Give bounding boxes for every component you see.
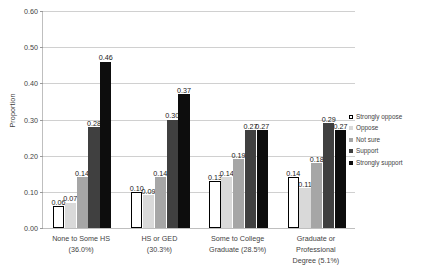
legend-item-label: Not sure	[356, 137, 380, 143]
chart-legend: Strongly opposeOpposeNot sureSupportStro…	[349, 111, 423, 169]
legend-item-label: Strongly oppose	[356, 114, 402, 120]
legend-item[interactable]: Strongly support	[349, 157, 423, 169]
bar[interactable]: 0.19	[233, 159, 244, 228]
bar[interactable]: 0.18	[311, 163, 322, 228]
bar[interactable]: 0.27	[245, 130, 256, 228]
y-axis-title: Proportion	[8, 76, 17, 146]
bar[interactable]: 0.14	[288, 177, 299, 228]
y-axis-tick-label: 0.60	[24, 7, 38, 16]
bar[interactable]: 0.06	[53, 206, 64, 228]
x-axis-category-label: Some to CollegeGraduate (28.5%)	[199, 233, 277, 255]
bar-value-label: 0.37	[177, 87, 191, 94]
x-axis-category-line: HS or GED	[120, 233, 198, 244]
x-axis-category-label: Graduate or ProfessionalDegree (5.1%)	[277, 233, 355, 266]
y-axis-tick-label: 0.20	[24, 151, 38, 160]
legend-item[interactable]: Strongly oppose	[349, 111, 423, 123]
x-axis-category-line: Graduate (28.5%)	[199, 244, 277, 255]
bar[interactable]: 0.37	[178, 94, 189, 228]
bar[interactable]: 0.27	[335, 130, 346, 228]
legend-swatch-icon	[349, 161, 353, 165]
bar[interactable]: 0.30	[167, 120, 178, 229]
bar[interactable]: 0.46	[100, 62, 111, 228]
legend-item-label: Support	[356, 148, 378, 154]
y-axis-tick-label: 0.40	[24, 79, 38, 88]
bar[interactable]: 0.14	[155, 177, 166, 228]
bar[interactable]: 0.13	[209, 181, 220, 228]
bar-value-label: 0.27	[255, 123, 269, 130]
bar-value-label: 0.28	[87, 120, 101, 127]
legend-item[interactable]: Not sure	[349, 134, 423, 146]
legend-swatch-icon	[349, 149, 353, 153]
legend-item-label: Oppose	[356, 125, 378, 131]
gridline	[43, 228, 355, 229]
x-axis-category-line: Graduate or Professional	[277, 233, 355, 255]
bar-value-label: 0.09	[142, 188, 156, 195]
legend-item-label: Strongly support	[356, 160, 403, 166]
legend-item[interactable]: Support	[349, 146, 423, 158]
bar[interactable]: 0.14	[77, 177, 88, 228]
bar[interactable]: 0.07	[65, 203, 76, 228]
bar-value-label: 0.14	[286, 170, 300, 177]
bar[interactable]: 0.09	[143, 195, 154, 228]
bar[interactable]: 0.10	[131, 192, 142, 228]
bar-value-label: 0.14	[75, 170, 89, 177]
x-axis-category-line: (36.0%)	[42, 244, 120, 255]
bar-value-label: 0.11	[298, 181, 311, 188]
legend-swatch-icon	[349, 115, 353, 119]
bar-value-label: 0.14	[153, 170, 167, 177]
bar-value-label: 0.19	[232, 152, 246, 159]
bar-value-label: 0.27	[333, 123, 347, 130]
bar[interactable]: 0.27	[257, 130, 268, 228]
y-axis-tick-label: 0.10	[24, 187, 38, 196]
bar[interactable]: 0.11	[299, 188, 310, 228]
x-axis-category-line: None to Some HS	[42, 233, 120, 244]
bar-value-label: 0.18	[310, 156, 324, 163]
bar[interactable]: 0.14	[221, 177, 232, 228]
x-axis-category-label: HS or GED(30.3%)	[120, 233, 198, 255]
bar-value-label: 0.46	[99, 54, 113, 61]
x-axis-category-line: Degree (5.1%)	[277, 255, 355, 266]
bar-value-label: 0.30	[165, 112, 179, 119]
bar-group: 0.130.140.190.270.27	[200, 11, 278, 228]
legend-item[interactable]: Oppose	[349, 123, 423, 135]
bar-group: 0.140.110.180.290.27	[278, 11, 356, 228]
y-axis-tick-label: 0.00	[24, 224, 38, 233]
bar-value-label: 0.07	[63, 195, 77, 202]
bar-chart: Proportion 0.000.100.200.300.400.500.600…	[0, 0, 423, 268]
bar-group: 0.060.070.140.280.46	[43, 11, 121, 228]
plot-area: 0.000.100.200.300.400.500.600.060.070.14…	[42, 11, 355, 228]
x-axis-category-label: None to Some HS(36.0%)	[42, 233, 120, 255]
x-axis-category-line: (30.3%)	[120, 244, 198, 255]
x-axis-category-line: Some to College	[199, 233, 277, 244]
y-axis-tick-label: 0.50	[24, 43, 38, 52]
y-axis-tick-label: 0.30	[24, 115, 38, 124]
bar-value-label: 0.14	[220, 170, 234, 177]
bar[interactable]: 0.29	[323, 123, 334, 228]
y-axis-tick	[40, 228, 43, 229]
bar-group: 0.100.090.140.300.37	[121, 11, 199, 228]
legend-swatch-icon	[349, 126, 353, 130]
legend-swatch-icon	[349, 138, 353, 142]
bar[interactable]: 0.28	[88, 127, 99, 228]
